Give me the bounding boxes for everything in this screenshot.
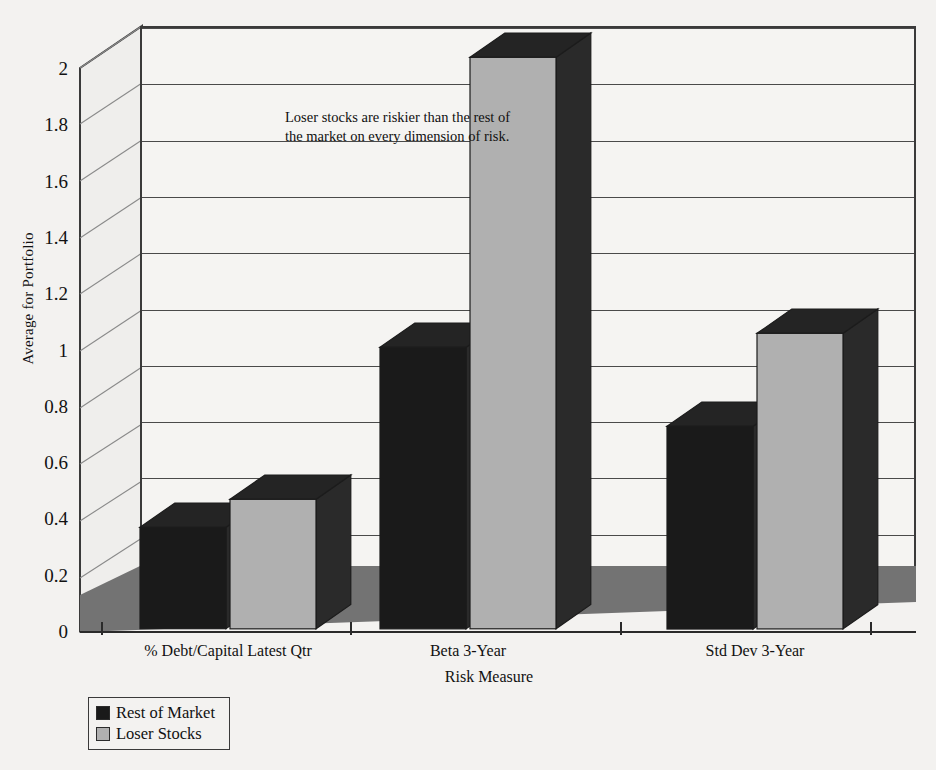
y-tick-label: 1.6 [26,171,68,190]
y-tick-label: 0 [26,622,68,641]
gridline [142,28,914,29]
y-tick-label: 0.6 [26,453,68,472]
x-tick-label: Beta 3-Year [430,642,506,660]
bar [667,428,753,631]
bar-chart-figure: Average for Portfolio 00.20.40.60.811.21… [0,0,936,770]
x-axis-title-text: Risk Measure [445,668,533,685]
legend-item-label: Rest of Market [116,703,215,723]
y-tick-label: 0.8 [26,396,68,415]
annotation-line: the market on every dimension of risk. [285,127,605,146]
x-axis-title: Risk Measure [0,668,936,686]
y-tick-label: 2 [26,59,68,78]
x-tick-mark [870,622,872,635]
bar-front-face [667,426,753,629]
x-tick-mark [101,622,103,635]
bar-front-face [380,348,466,629]
bar-side-face [316,475,351,629]
bar-front-face [757,333,843,629]
y-tick-label: 0.2 [26,565,68,584]
bar-front-face [230,500,316,629]
chart-annotation: Loser stocks are riskier than the rest o… [285,108,605,146]
bar [140,530,226,631]
y-tick-label: 1 [26,340,68,359]
annotation-line: Loser stocks are riskier than the rest o… [285,108,605,127]
legend-swatch-icon [96,706,110,720]
bar [230,502,316,631]
x-tick-mark [620,622,622,635]
bar [380,350,466,632]
y-tick-label: 1.8 [26,115,68,134]
y-tick-label: 1.4 [26,227,68,246]
legend-item-label: Loser Stocks [116,724,202,744]
bar-side-face [843,309,878,629]
legend-item[interactable]: Loser Stocks [96,723,215,744]
bar [757,335,843,631]
x-tick-label: % Debt/Capital Latest Qtr [144,642,312,660]
y-axis-tick-labels: 00.20.40.60.811.21.41.61.82 [18,0,68,770]
y-tick-label: 0.4 [26,509,68,528]
plot-area: Loser stocks are riskier than the rest o… [80,26,916,631]
y-tick-label: 1.2 [26,284,68,303]
plot-side-wall [80,26,142,631]
legend-item[interactable]: Rest of Market [96,702,215,723]
chart-legend: Rest of MarketLoser Stocks [88,697,230,750]
legend-swatch-icon [96,727,110,741]
x-tick-mark [350,622,352,635]
bar-front-face [140,528,226,629]
x-tick-label: Std Dev 3-Year [706,642,805,660]
